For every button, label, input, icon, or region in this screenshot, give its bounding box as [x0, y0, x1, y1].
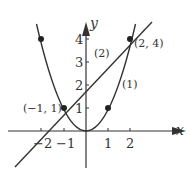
point-2-4 [127, 36, 133, 42]
x-tick-label-1: 1 [104, 136, 112, 151]
y-tick-label-2: 2 [75, 78, 83, 93]
point-label-2-4: (2, 4) [134, 37, 164, 50]
graph-canvas: x y −2 −1 1 2 1 2 3 4 (−1, 1) (2, 4) (1)… [0, 0, 192, 175]
x-tick-label-neg1: −1 [56, 136, 75, 151]
y-tick-label-3: 3 [75, 55, 83, 70]
curve-label-2: (2) [94, 47, 110, 60]
y-tick-label-4: 4 [75, 32, 83, 47]
point-1-1 [105, 105, 111, 111]
x-tick-label-neg2: −2 [33, 136, 52, 151]
point-neg1-1 [61, 105, 67, 111]
curve-label-1: (1) [122, 78, 138, 91]
y-axis-label: y [89, 15, 99, 31]
point-label-neg1-1: (−1, 1) [23, 102, 62, 115]
y-tick-label-1: 1 [75, 101, 83, 116]
x-tick-label-2: 2 [126, 136, 134, 151]
x-axis-label: x [176, 122, 184, 138]
point-neg2-4 [38, 36, 44, 42]
